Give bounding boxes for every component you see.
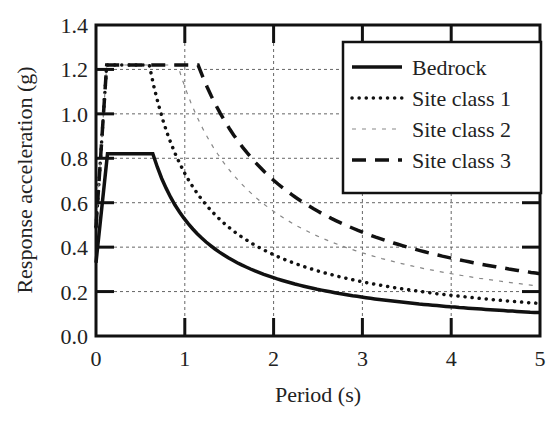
y-tick-label: 1.4 bbox=[61, 13, 89, 38]
legend-label: Site class 3 bbox=[412, 148, 511, 173]
legend-label: Site class 1 bbox=[412, 86, 511, 111]
legend: BedrockSite class 1Site class 2Site clas… bbox=[343, 42, 541, 193]
y-axis-label: Response acceleration (g) bbox=[12, 66, 37, 293]
x-tick-label: 3 bbox=[357, 346, 368, 371]
y-tick-label: 0.8 bbox=[61, 146, 89, 171]
y-tick-label: 0.0 bbox=[61, 324, 89, 349]
x-tick-label: 2 bbox=[268, 346, 279, 371]
y-tick-label: 0.6 bbox=[61, 191, 89, 216]
y-tick-label: 0.4 bbox=[61, 235, 89, 260]
x-tick-label: 4 bbox=[446, 346, 457, 371]
y-tick-label: 1.2 bbox=[61, 57, 89, 82]
legend-label: Site class 2 bbox=[412, 117, 511, 142]
x-tick-label: 5 bbox=[535, 346, 546, 371]
x-tick-label: 1 bbox=[179, 346, 190, 371]
x-axis-label: Period (s) bbox=[275, 382, 361, 407]
x-tick-label: 0 bbox=[91, 346, 102, 371]
legend-label: Bedrock bbox=[412, 55, 487, 80]
response-spectrum-chart: 0123450.00.20.40.60.81.01.21.4 Period (s… bbox=[0, 0, 556, 423]
y-tick-label: 0.2 bbox=[61, 280, 89, 305]
y-tick-label: 1.0 bbox=[61, 102, 89, 127]
